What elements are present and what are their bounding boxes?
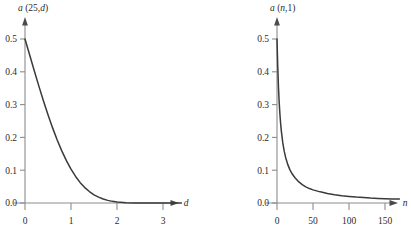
x-tick-label-right-3: 150 (378, 216, 393, 226)
title-right-close: ) (292, 3, 295, 14)
x-tick-label-left-1: 1 (69, 216, 74, 226)
x-tick-label-left-0: 0 (23, 216, 28, 226)
x-tick-label-right-1: 50 (308, 216, 318, 226)
y-tick-label-left-4: 0.4 (5, 67, 17, 77)
x-axis-label-left: d (184, 198, 189, 208)
x-tick-label-right-2: 100 (342, 216, 357, 226)
y-tick-label-right-5: 0.5 (257, 34, 269, 44)
x-tick-label-left-2: 2 (115, 216, 120, 226)
x-axis-label-right: n (403, 198, 408, 208)
x-tick-label-left-3: 3 (161, 216, 166, 226)
x-tick-label-right-0: 0 (275, 216, 280, 226)
chart-panel-right: 0.0 0.1 0.2 0.3 0.4 0.5 0 50 100 150 n a… (205, 0, 411, 232)
chart-left-svg: 0.0 0.1 0.2 0.3 0.4 0.5 0 1 2 3 d a (25,… (0, 0, 205, 232)
y-tick-label-right-3: 0.3 (257, 100, 269, 110)
y-axis-arrowhead-right (274, 17, 280, 26)
y-tick-label-left-1: 0.1 (5, 166, 17, 176)
chart-panel-left: 0.0 0.1 0.2 0.3 0.4 0.5 0 1 2 3 d a (25,… (0, 0, 205, 232)
y-tick-label-right-4: 0.4 (257, 67, 269, 77)
data-curve-right (277, 39, 399, 199)
y-axis-arrowhead-left (22, 17, 28, 26)
title-left-close: ) (45, 3, 48, 14)
chart-right-svg: 0.0 0.1 0.2 0.3 0.4 0.5 0 50 100 150 n a… (205, 0, 411, 232)
y-tick-label-left-2: 0.2 (5, 133, 17, 143)
chart-title-right: a (n,1) (270, 3, 295, 14)
x-ticks-left (25, 203, 163, 210)
y-ticks-left (20, 39, 25, 203)
x-ticks-right (277, 203, 385, 210)
y-tick-label-right-0: 0.0 (257, 198, 269, 208)
y-tick-label-left-3: 0.3 (5, 100, 17, 110)
chart-title-left: a (25,d) (18, 3, 48, 14)
x-axis-arrowhead-right (390, 200, 399, 206)
title-left-arg1: 25 (28, 3, 38, 13)
figure-pair: 0.0 0.1 0.2 0.3 0.4 0.5 0 1 2 3 d a (25,… (0, 0, 411, 232)
y-tick-label-left-0: 0.0 (5, 198, 17, 208)
y-tick-label-left-5: 0.5 (5, 34, 17, 44)
y-ticks-right (272, 39, 277, 203)
y-tick-label-right-1: 0.1 (257, 166, 269, 176)
y-tick-label-right-2: 0.2 (257, 133, 269, 143)
data-curve-left (25, 39, 181, 203)
